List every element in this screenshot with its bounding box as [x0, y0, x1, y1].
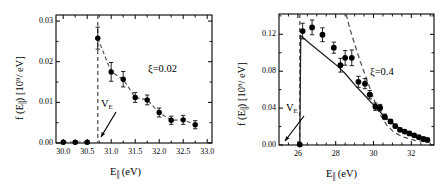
left-x-axis-label: E|| (eV)	[110, 166, 141, 179]
y-tick-label: 0.04	[252, 103, 276, 112]
y-tick-label: 0.03	[29, 16, 53, 25]
x-tick-label: 32	[395, 149, 427, 158]
x-tick-label: 30	[358, 149, 390, 158]
x-tick-label: 33.0	[191, 147, 223, 156]
right-y-axis-label: f (E||) [108/ eV]	[236, 62, 249, 126]
right-threshold-annotation: VE	[286, 102, 298, 114]
right-panel-plot	[224, 0, 447, 188]
right-xi-annotation: ξ=0.4	[370, 66, 394, 77]
left-y-axis-label: f (E||) [109/ eV]	[14, 56, 27, 120]
right-panel: f (E||) [108/ eV] E|| (eV) ξ=0.4 VE 2628…	[224, 0, 447, 188]
y-tick-label: 0.08	[252, 66, 276, 75]
y-tick-label: 0.12	[252, 29, 276, 38]
left-xi-annotation: ξ=0.02	[148, 63, 177, 74]
y-tick-label: 0.02	[29, 57, 53, 66]
figure-root: f (E||) [109/ eV] E|| (eV) ξ=0.02 VE 30.…	[0, 0, 447, 188]
left-panel: f (E||) [109/ eV] E|| (eV) ξ=0.02 VE 30.…	[0, 0, 224, 188]
left-panel-plot	[0, 0, 224, 188]
y-tick-label: 0.00	[29, 138, 53, 147]
y-tick-label: 0.00	[252, 140, 276, 149]
x-tick-label: 28	[320, 149, 352, 158]
x-tick-label: 26	[282, 149, 314, 158]
left-threshold-annotation: VE	[101, 98, 113, 110]
y-tick-label: 0.01	[29, 97, 53, 106]
right-x-axis-label: E|| (eV)	[326, 168, 357, 181]
